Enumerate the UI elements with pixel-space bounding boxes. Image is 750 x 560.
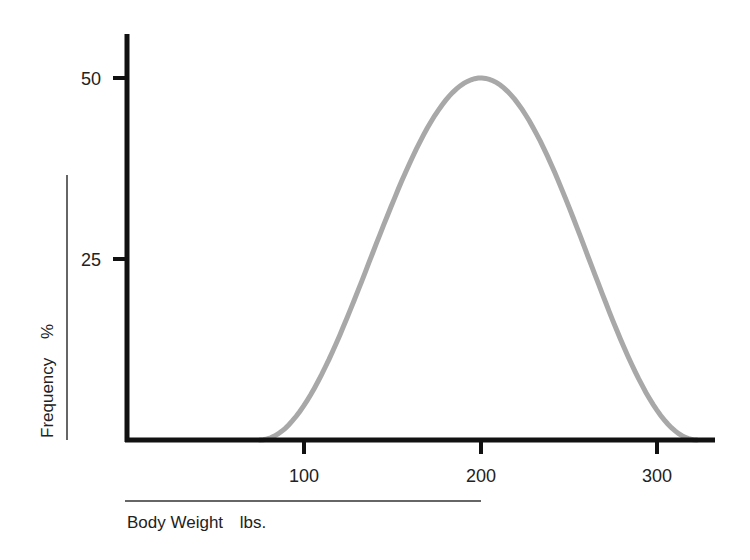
frequency-chart: 50 25 100 200 300 Body Weight lbs. Frequ… bbox=[0, 0, 750, 560]
x-axis-title-text: Body Weight bbox=[127, 513, 223, 532]
x-axis-title: Body Weight lbs. bbox=[127, 513, 266, 532]
y-axis-title: Frequency % bbox=[38, 324, 57, 438]
y-axis-unit: % bbox=[38, 324, 57, 339]
y-axis-title-text: Frequency bbox=[38, 357, 57, 438]
x-tick-label-100: 100 bbox=[289, 466, 319, 486]
x-tick-label-200: 200 bbox=[466, 466, 496, 486]
y-tick-label-25: 25 bbox=[81, 250, 101, 270]
x-tick-label-300: 300 bbox=[642, 466, 672, 486]
x-axis-unit: lbs. bbox=[240, 513, 266, 532]
distribution-curve bbox=[260, 78, 697, 440]
y-tick-label-50: 50 bbox=[81, 69, 101, 89]
